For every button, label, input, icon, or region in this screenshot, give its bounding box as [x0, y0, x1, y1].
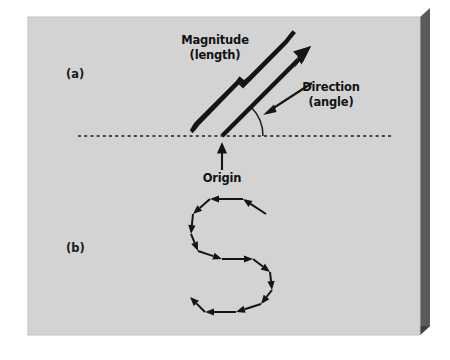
panel-b-label: (b) — [66, 241, 85, 255]
board-shadow — [420, 8, 430, 335]
magnitude-callout-line-2: (length) — [190, 48, 241, 62]
panel-a-label: (a) — [66, 67, 84, 81]
magnitude-callout-line-1: Magnitude — [181, 33, 249, 47]
figure-root: (a) Magnitude (length) — [0, 0, 450, 360]
direction-callout-line-1: Direction — [302, 80, 360, 94]
chain-segment-shaft — [192, 214, 193, 225]
vector-diagram-svg: (a) Magnitude (length) — [0, 0, 450, 360]
direction-callout-line-2: (angle) — [308, 95, 353, 109]
chain-segment-shaft — [270, 272, 271, 281]
origin-callout-label: Origin — [203, 171, 242, 185]
